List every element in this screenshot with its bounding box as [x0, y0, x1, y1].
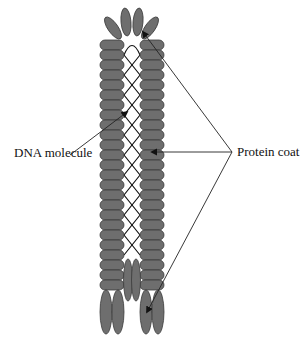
- dna-molecule-label: DNA molecule: [14, 145, 92, 161]
- dna-molecule: [124, 46, 140, 256]
- top-tail-fibers: [101, 8, 161, 42]
- protein-coat-right: [140, 40, 164, 290]
- inner-tail-fibers: [124, 259, 141, 301]
- protein-coat-left: [100, 40, 124, 290]
- bottom-tail-fibers: [100, 290, 164, 334]
- virus-diagram: [0, 0, 307, 343]
- protein-coat-label: Protein coat: [237, 144, 299, 160]
